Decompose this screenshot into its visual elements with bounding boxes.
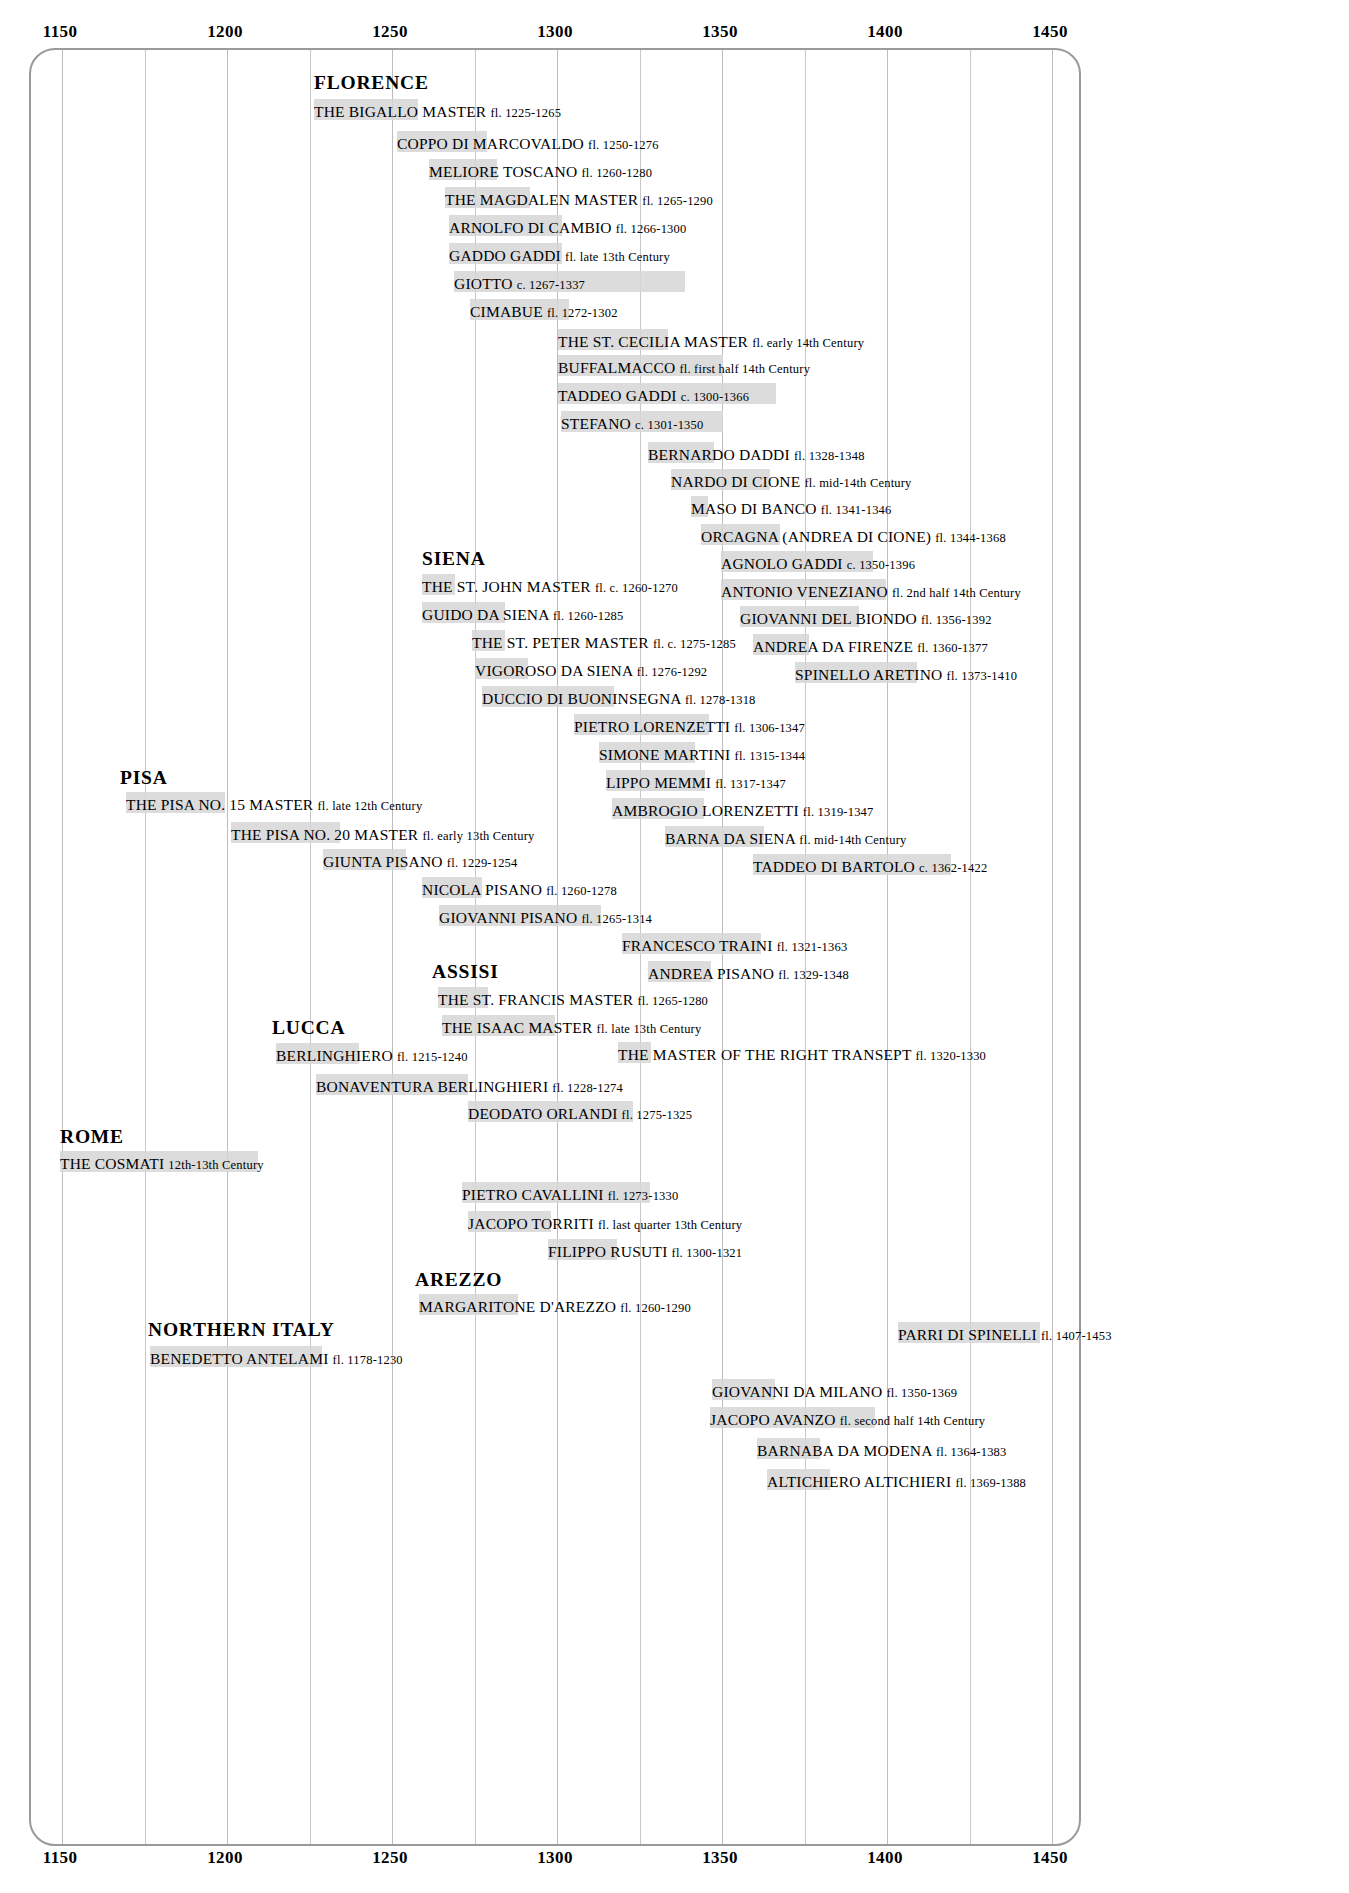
artist-dates: fl. 1319-1347 xyxy=(803,805,874,819)
timeline-entry: BERNARDO DADDI fl. 1328-1348 xyxy=(648,444,865,466)
artist-dates: fl. early 13th Century xyxy=(422,829,534,843)
timeline-entry: THE BIGALLO MASTER fl. 1225-1265 xyxy=(314,101,561,123)
timeline-entry: PIETRO LORENZETTI fl. 1306-1347 xyxy=(574,716,805,738)
artist-dates: c. 1362-1422 xyxy=(919,861,987,875)
timeline-entry: JACOPO AVANZO fl. second half 14th Centu… xyxy=(710,1409,985,1431)
artist-dates: fl. 1178-1230 xyxy=(333,1353,403,1367)
axis-tick-1250: 1250 xyxy=(372,1848,408,1868)
entry-text: COPPO DI MARCOVALDO fl. 1250-1276 xyxy=(397,133,659,156)
entry-text: CIMABUE fl. 1272-1302 xyxy=(470,301,618,324)
artist-dates: fl. 1350-1369 xyxy=(886,1386,957,1400)
entry-text: ARNOLFO DI CAMBIO fl. 1266-1300 xyxy=(449,217,686,240)
entry-text: BERNARDO DADDI fl. 1328-1348 xyxy=(648,444,865,467)
artist-name: BERLINGHIERO xyxy=(276,1047,397,1064)
timeline-entry: GADDO GADDI fl. late 13th Century xyxy=(449,245,670,267)
entry-text: DEODATO ORLANDI fl. 1275-1325 xyxy=(468,1103,692,1126)
timeline-entry: NARDO DI CIONE fl. mid-14th Century xyxy=(671,471,912,493)
artist-name: BONAVENTURA BERLINGHIERI xyxy=(316,1078,552,1095)
artist-dates: fl. 1344-1368 xyxy=(935,531,1006,545)
entry-text: DUCCIO DI BUONINSEGNA fl. 1278-1318 xyxy=(482,688,756,711)
artist-dates: fl. 1373-1410 xyxy=(947,669,1018,683)
artist-name: TADDEO DI BARTOLO xyxy=(753,858,919,875)
entry-text: THE COSMATI 12th-13th Century xyxy=(60,1153,264,1176)
timeline-entry: ANDREA PISANO fl. 1329-1348 xyxy=(648,963,849,985)
artist-dates: fl. 1328-1348 xyxy=(794,449,865,463)
timeline-entry: BENEDETTO ANTELAMI fl. 1178-1230 xyxy=(150,1348,403,1370)
timeline-entry: BARNABA DA MODENA fl. 1364-1383 xyxy=(757,1440,1007,1462)
artist-name: GIOVANNI DA MILANO xyxy=(712,1383,886,1400)
timeline-entry: GIOTTO c. 1267-1337 xyxy=(454,273,585,295)
timeline-entry: ANDREA DA FIRENZE fl. 1360-1377 xyxy=(753,636,988,658)
artist-name: BUFFALMACCO xyxy=(558,359,679,376)
timeline-entry: DEODATO ORLANDI fl. 1275-1325 xyxy=(468,1103,692,1125)
artist-name: DEODATO ORLANDI xyxy=(468,1105,622,1122)
entry-text: ANTONIO VENEZIANO fl. 2nd half 14th Cent… xyxy=(721,581,1021,604)
artist-dates: fl. 1278-1318 xyxy=(685,693,756,707)
section-header-siena: SIENA xyxy=(422,548,486,570)
artist-dates: fl. 1272-1302 xyxy=(547,306,618,320)
artist-name: PARRI DI SPINELLI xyxy=(898,1326,1041,1343)
artist-name: ARNOLFO DI CAMBIO xyxy=(449,219,616,236)
timeline-entry: AMBROGIO LORENZETTI fl. 1319-1347 xyxy=(612,800,874,822)
timeline-rows: FLORENCETHE BIGALLO MASTER fl. 1225-1265… xyxy=(0,0,1349,1893)
entry-text: THE BIGALLO MASTER fl. 1225-1265 xyxy=(314,101,561,124)
timeline-entry: JACOPO TORRITI fl. last quarter 13th Cen… xyxy=(468,1213,742,1235)
section-header-pisa: PISA xyxy=(120,767,168,789)
artist-name: PIETRO CAVALLINI xyxy=(462,1186,608,1203)
artist-dates: 12th-13th Century xyxy=(168,1158,263,1172)
timeline-entry: BERLINGHIERO fl. 1215-1240 xyxy=(276,1045,468,1067)
entry-text: GIOVANNI PISANO fl. 1265-1314 xyxy=(439,907,652,930)
artist-dates: fl. 1275-1325 xyxy=(622,1108,693,1122)
artist-name: THE BIGALLO MASTER xyxy=(314,103,490,120)
artist-dates: fl. 1315-1344 xyxy=(735,749,806,763)
timeline-entry: SPINELLO ARETINO fl. 1373-1410 xyxy=(795,664,1017,686)
timeline-entry: TADDEO DI BARTOLO c. 1362-1422 xyxy=(753,856,987,878)
entry-text: THE MAGDALEN MASTER fl. 1265-1290 xyxy=(445,189,713,212)
timeline-entry: THE ST. PETER MASTER fl. c. 1275-1285 xyxy=(472,632,736,654)
timeline-entry: AGNOLO GADDI c. 1350-1396 xyxy=(721,553,915,575)
artist-dates: fl. 1321-1363 xyxy=(777,940,848,954)
entry-text: JACOPO TORRITI fl. last quarter 13th Cen… xyxy=(468,1213,742,1236)
artist-dates: fl. mid-14th Century xyxy=(804,476,911,490)
artist-name: MELIORE TOSCANO xyxy=(429,163,581,180)
timeline-entry: BUFFALMACCO fl. first half 14th Century xyxy=(558,357,810,379)
artist-dates: fl. late 12th Century xyxy=(317,799,422,813)
timeline-entry: PARRI DI SPINELLI fl. 1407-1453 xyxy=(898,1324,1112,1346)
section-header-northern-italy: NORTHERN ITALY xyxy=(148,1319,335,1341)
artist-dates: fl. 1329-1348 xyxy=(778,968,849,982)
artist-name: BARNABA DA MODENA xyxy=(757,1442,936,1459)
timeline-entry: DUCCIO DI BUONINSEGNA fl. 1278-1318 xyxy=(482,688,756,710)
artist-name: THE PISA NO. 15 MASTER xyxy=(126,796,317,813)
artist-name: STEFANO xyxy=(561,415,635,432)
artist-dates: fl. late 13th Century xyxy=(565,250,670,264)
entry-text: VIGOROSO DA SIENA fl. 1276-1292 xyxy=(475,660,707,683)
entry-text: TADDEO GADDI c. 1300-1366 xyxy=(558,385,749,408)
artist-name: THE ST. CECILIA MASTER xyxy=(558,333,752,350)
artist-name: THE MAGDALEN MASTER xyxy=(445,191,642,208)
artist-dates: fl. 1369-1388 xyxy=(955,1476,1026,1490)
artist-dates: fl. 1360-1377 xyxy=(917,641,988,655)
artist-name: JACOPO AVANZO xyxy=(710,1411,840,1428)
entry-text: THE ISAAC MASTER fl. late 13th Century xyxy=(442,1017,701,1040)
artist-name: AMBROGIO LORENZETTI xyxy=(612,802,803,819)
axis-tick-1400: 1400 xyxy=(867,1848,903,1868)
entry-text: BENEDETTO ANTELAMI fl. 1178-1230 xyxy=(150,1348,403,1371)
artist-dates: fl. 1320-1330 xyxy=(915,1049,986,1063)
entry-text: BERLINGHIERO fl. 1215-1240 xyxy=(276,1045,468,1068)
artist-name: CIMABUE xyxy=(470,303,547,320)
artist-dates: fl. c. 1275-1285 xyxy=(653,637,736,651)
artist-dates: fl. 1260-1290 xyxy=(620,1301,691,1315)
entry-text: BARNA DA SIENA fl. mid-14th Century xyxy=(665,828,906,851)
entry-text: GADDO GADDI fl. late 13th Century xyxy=(449,245,670,268)
section-header-assisi: ASSISI xyxy=(432,961,499,983)
artist-dates: fl. 2nd half 14th Century xyxy=(892,586,1021,600)
section-header-arezzo: AREZZO xyxy=(415,1269,502,1291)
entry-text: GIOTTO c. 1267-1337 xyxy=(454,273,585,296)
entry-text: THE MASTER OF THE RIGHT TRANSEPT fl. 132… xyxy=(618,1044,986,1067)
timeline-entry: BONAVENTURA BERLINGHIERI fl. 1228-1274 xyxy=(316,1076,623,1098)
artist-dates: c. 1350-1396 xyxy=(847,558,915,572)
artist-name: PIETRO LORENZETTI xyxy=(574,718,734,735)
artist-name: MASO DI BANCO xyxy=(691,500,821,517)
timeline-entry: GIOVANNI DA MILANO fl. 1350-1369 xyxy=(712,1381,957,1403)
entry-text: GIOVANNI DEL BIONDO fl. 1356-1392 xyxy=(740,608,992,631)
